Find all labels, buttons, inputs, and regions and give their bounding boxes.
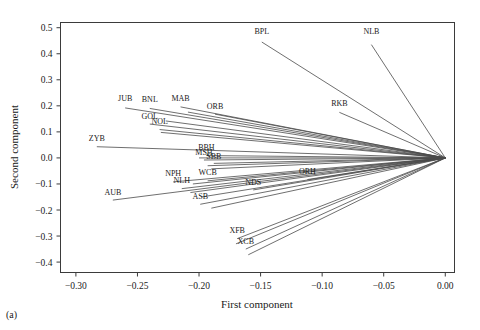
point-label: ORH xyxy=(299,167,316,176)
point-label: BNL xyxy=(142,95,158,104)
y-tick-label: −0.2 xyxy=(35,206,52,216)
x-axis-label: First component xyxy=(221,298,293,310)
point-label: ORB xyxy=(207,102,223,111)
y-tick-label: −0.4 xyxy=(35,258,52,268)
x-tick-label: −0.25 xyxy=(126,281,148,291)
y-tick-label: 0.3 xyxy=(41,75,53,85)
x-tick-label: −0.10 xyxy=(311,281,333,291)
figure-panel: −0.30−0.25−0.20−0.15−0.10−0.050.00 0.50.… xyxy=(0,0,480,330)
point-label: NOL xyxy=(151,117,168,126)
point-label: WCB xyxy=(199,168,217,177)
y-axis-label: Second component xyxy=(8,105,20,189)
y-tick-label: 0.4 xyxy=(41,49,53,59)
x-tick-label: −0.15 xyxy=(250,281,272,291)
point-label: BPL xyxy=(254,27,269,36)
point-label: NDS xyxy=(245,178,261,187)
y-tick-label: 0.1 xyxy=(41,127,53,137)
y-tick-label: 0.2 xyxy=(41,101,53,111)
point-label: ASB xyxy=(192,192,208,201)
point-label: AUB xyxy=(104,188,121,197)
biplot-chart: −0.30−0.25−0.20−0.15−0.10−0.050.00 0.50.… xyxy=(0,0,480,330)
figure-caption: (a) xyxy=(6,309,17,321)
x-tick-label: −0.05 xyxy=(373,281,395,291)
point-label: ZYB xyxy=(89,134,105,143)
y-tick-label: −0.1 xyxy=(35,179,52,189)
point-label: JUB xyxy=(118,94,132,103)
point-label: NLB xyxy=(363,27,379,36)
y-tick-label: 0.5 xyxy=(41,23,53,33)
x-tick-label: 0.00 xyxy=(437,281,454,291)
point-label: RKB xyxy=(331,99,347,108)
point-label: NLH xyxy=(174,176,191,185)
y-tick-label: −0.3 xyxy=(35,232,52,242)
x-tick-label: −0.20 xyxy=(188,281,210,291)
point-label: SBB xyxy=(206,152,221,161)
y-tick-label: 0.0 xyxy=(41,153,53,163)
x-tick-label: −0.30 xyxy=(65,281,87,291)
point-label: MAB xyxy=(171,94,189,103)
point-label: XCB xyxy=(238,237,254,246)
point-label: XFB xyxy=(229,226,245,235)
